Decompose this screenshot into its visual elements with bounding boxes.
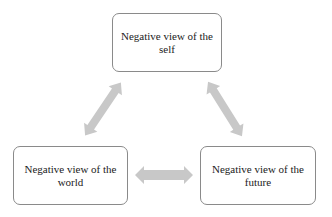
node-negative-view-self: Negative view of the self xyxy=(112,13,222,72)
double-arrow-self-future xyxy=(201,78,248,141)
node-negative-view-future: Negative view of the future xyxy=(200,146,316,205)
node-negative-view-world: Negative view of the world xyxy=(13,146,128,205)
double-arrow-world-future xyxy=(135,166,193,184)
node-label: Negative view of the future xyxy=(209,163,307,189)
node-label: Negative view of the self xyxy=(121,30,213,56)
double-arrow-self-world xyxy=(78,78,127,140)
node-label: Negative view of the world xyxy=(22,163,119,189)
